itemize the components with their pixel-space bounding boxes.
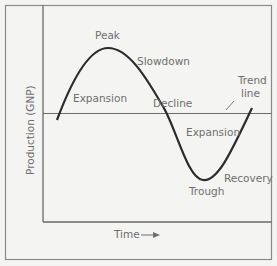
label-recovery: Recovery xyxy=(224,172,273,184)
x-axis-label: Time xyxy=(113,228,140,240)
label-trend-line: line xyxy=(241,87,260,99)
label-peak: Peak xyxy=(95,29,121,41)
business-cycle-diagram: Peak Slowdown Expansion Decline Trend li… xyxy=(0,0,277,266)
arrow-right-icon xyxy=(153,232,160,238)
y-axis-label: Production (GNP) xyxy=(24,85,36,175)
label-expansion-1: Expansion xyxy=(73,92,127,104)
label-trough: Trough xyxy=(188,185,224,197)
label-decline: Decline xyxy=(153,97,192,109)
label-expansion-2: Expansion xyxy=(186,126,240,138)
label-trend: Trend xyxy=(237,74,267,86)
trend-line-pointer xyxy=(226,101,234,110)
label-slowdown: Slowdown xyxy=(137,55,190,67)
